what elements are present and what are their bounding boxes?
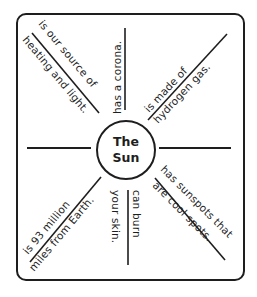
sun-web-diagram: The Sun is our source of heating and lig… [0, 0, 257, 297]
fact-top: has a corona. [111, 41, 123, 114]
fact-bottom-right: can burn [131, 190, 143, 238]
fact-bottom-left: your skin. [110, 190, 122, 243]
center-title-line1: The [113, 134, 139, 149]
center-title-line2: Sun [113, 150, 140, 165]
